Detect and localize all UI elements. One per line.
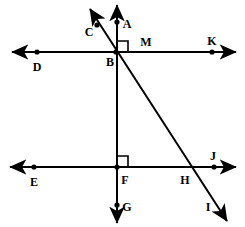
right-angle-at-B <box>117 41 128 52</box>
point-label-a: A <box>123 18 132 30</box>
point-dot-a <box>114 19 119 24</box>
point-label-b: B <box>106 56 114 68</box>
point-dot-d <box>34 49 39 54</box>
point-dot-f <box>114 164 119 169</box>
point-label-e: E <box>30 176 38 188</box>
point-dot-c <box>94 22 99 27</box>
point-dot-k <box>209 49 214 54</box>
point-dot-b <box>113 49 118 54</box>
point-label-k: K <box>207 35 216 47</box>
point-dot-e <box>31 164 36 169</box>
point-dot-j <box>211 164 216 169</box>
point-label-i: I <box>206 201 211 213</box>
point-dot-g <box>114 202 119 207</box>
geometry-diagram: A B C D E F G H I J K M <box>0 0 245 227</box>
point-label-h: H <box>180 174 189 186</box>
point-label-d: D <box>33 61 42 73</box>
point-label-c: C <box>85 26 94 38</box>
point-label-f: F <box>121 174 128 186</box>
point-label-m: M <box>140 36 151 48</box>
lines-group <box>10 5 236 223</box>
point-label-g: G <box>122 201 131 213</box>
point-label-j: J <box>210 150 216 162</box>
